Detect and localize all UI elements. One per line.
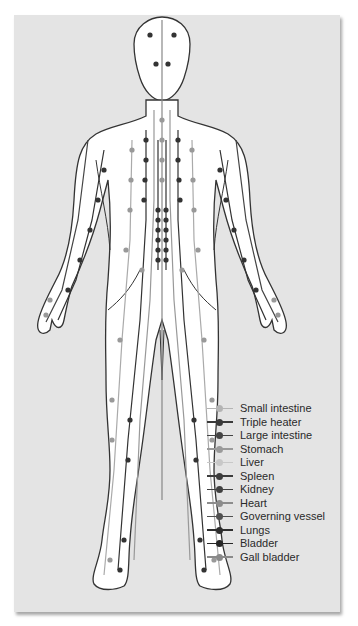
legend-swatch-icon bbox=[207, 539, 233, 549]
legend-label: Spleen bbox=[240, 470, 274, 483]
legend: Small intestine Triple heater Large inte… bbox=[207, 402, 337, 564]
legend-swatch-icon bbox=[207, 552, 233, 562]
legend-label: Large intestine bbox=[240, 429, 312, 442]
legend-label: Governing vessel bbox=[240, 510, 325, 523]
legend-label: Heart bbox=[240, 497, 267, 510]
legend-swatch-icon bbox=[207, 444, 233, 454]
legend-swatch-icon bbox=[207, 417, 233, 427]
legend-swatch-icon bbox=[207, 485, 233, 495]
legend-item: Liver bbox=[207, 456, 337, 470]
legend-label: Liver bbox=[240, 456, 264, 469]
diagram-panel: Small intestine Triple heater Large inte… bbox=[14, 15, 340, 612]
legend-item: Small intestine bbox=[207, 402, 337, 416]
legend-item: Spleen bbox=[207, 470, 337, 484]
legend-label: Triple heater bbox=[240, 416, 301, 429]
legend-swatch-icon bbox=[207, 404, 233, 414]
legend-label: Kidney bbox=[240, 483, 274, 496]
legend-swatch-icon bbox=[207, 458, 233, 468]
legend-item: Large intestine bbox=[207, 429, 337, 443]
legend-swatch-icon bbox=[207, 498, 233, 508]
legend-label: Gall bladder bbox=[240, 551, 299, 564]
legend-swatch-icon bbox=[207, 471, 233, 481]
legend-swatch-icon bbox=[207, 512, 233, 522]
legend-label: Stomach bbox=[240, 443, 283, 456]
legend-item: Kidney bbox=[207, 483, 337, 497]
legend-item: Gall bladder bbox=[207, 551, 337, 565]
legend-item: Lungs bbox=[207, 524, 337, 538]
legend-swatch-icon bbox=[207, 431, 233, 441]
legend-label: Small intestine bbox=[240, 402, 312, 415]
legend-item: Bladder bbox=[207, 537, 337, 551]
legend-swatch-icon bbox=[207, 525, 233, 535]
legend-item: Heart bbox=[207, 497, 337, 511]
legend-item: Stomach bbox=[207, 443, 337, 457]
legend-label: Lungs bbox=[240, 524, 270, 537]
legend-item: Triple heater bbox=[207, 416, 337, 430]
legend-label: Bladder bbox=[240, 537, 278, 550]
legend-item: Governing vessel bbox=[207, 510, 337, 524]
